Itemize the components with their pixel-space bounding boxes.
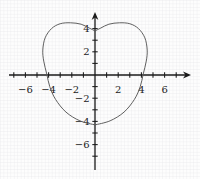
plot-page: −6−4−224642−2−4−6	[0, 0, 200, 179]
y-tick-label: −6	[75, 139, 90, 150]
x-tick-label: −4	[41, 84, 56, 95]
y-tick-label: 4	[83, 23, 89, 34]
x-tick-label: 2	[115, 84, 121, 95]
y-tick-label: −2	[75, 93, 90, 104]
x-tick-label: 6	[161, 84, 167, 95]
x-tick-label: −6	[18, 84, 33, 95]
heart-curve-plot: −6−4−224642−2−4−6	[0, 0, 200, 179]
y-tick-label: 2	[83, 46, 89, 57]
